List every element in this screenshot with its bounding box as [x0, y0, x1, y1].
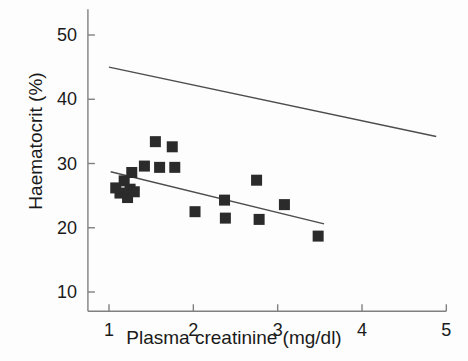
plot-canvas: 102030405012345 [0, 0, 468, 361]
data-point-marker [169, 162, 180, 173]
data-point-marker [129, 186, 140, 197]
data-point-marker [126, 167, 137, 178]
x-axis-label: Plasma creatinine (mg/dl) [0, 327, 468, 349]
data-point-marker [154, 162, 165, 173]
regression-line [111, 172, 324, 224]
data-point-marker [150, 136, 161, 147]
y-tick-label: 40 [57, 89, 77, 109]
data-point-marker [190, 206, 201, 217]
data-point-marker [167, 141, 178, 152]
y-tick-label: 10 [57, 282, 77, 302]
data-point-marker [251, 175, 262, 186]
data-point-marker [313, 231, 324, 242]
y-tick-label: 50 [57, 25, 77, 45]
scatter-plot-figure: 102030405012345 Haematocrit (%) Plasma c… [0, 0, 468, 361]
data-point-marker [254, 214, 265, 225]
data-point-marker [220, 213, 231, 224]
data-points [110, 136, 323, 241]
upper-reference-line [109, 67, 436, 136]
data-point-marker [139, 161, 150, 172]
data-point-marker [219, 195, 230, 206]
data-point-marker [279, 199, 290, 210]
y-tick-label: 30 [57, 154, 77, 174]
axes [88, 9, 446, 311]
y-tick-label: 20 [57, 218, 77, 238]
y-axis-label: Haematocrit (%) [25, 31, 47, 251]
